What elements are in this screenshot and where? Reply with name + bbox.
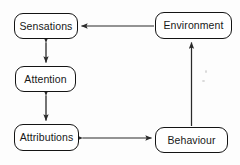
node-sensations[interactable]: Sensations [14,13,78,39]
node-attention-label: Attention [24,73,66,84]
node-attributions[interactable]: Attributions [14,124,79,151]
node-sensations-label: Sensations [20,20,73,31]
scan-speck [202,80,205,82]
diagram-canvas: Sensations Environment Attention Attribu… [0,0,240,165]
node-attributions-label: Attributions [20,132,74,143]
node-attention[interactable]: Attention [15,66,76,92]
scan-speck [205,70,207,73]
node-behaviour[interactable]: Behaviour [155,127,228,153]
node-behaviour-label: Behaviour [167,134,215,145]
node-environment-label: Environment [163,20,223,31]
node-environment[interactable]: Environment [155,12,232,39]
